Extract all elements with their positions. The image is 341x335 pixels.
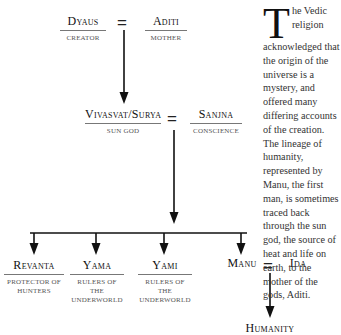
node-name: Yami: [138, 258, 192, 272]
node-yami: Yami Rulers of the underworld: [138, 258, 192, 305]
node-name: Yama: [70, 258, 124, 272]
node-name: Dyaus: [60, 14, 106, 28]
node-manu: Manu: [224, 256, 260, 270]
node-role-line2: hunters: [4, 287, 64, 296]
node-role-line1: Protector of: [4, 278, 64, 287]
node-humanity: Humanity: [238, 321, 302, 335]
node-name: Aditi: [145, 14, 187, 28]
divider: [145, 30, 187, 31]
union-symbol: =: [117, 14, 127, 31]
node-yama: Yama Rulers of the underworld: [70, 258, 124, 305]
node-role: Conscience: [190, 127, 242, 136]
node-vivasvat-surya: Vivasvat/Surya Sun god: [85, 107, 161, 136]
union-symbol: =: [167, 110, 177, 127]
divider: [70, 274, 124, 275]
node-revanta: Revanta Protector of hunters: [4, 258, 64, 296]
drop-cap: T: [263, 6, 290, 42]
node-name: Manu: [224, 256, 260, 270]
node-name: Vivasvat/Surya: [85, 107, 161, 121]
node-role-line2: underworld: [70, 296, 124, 305]
node-sanjna: Sanjna Conscience: [190, 107, 242, 136]
node-role: Sun god: [85, 127, 161, 136]
divider: [85, 123, 161, 124]
divider: [4, 274, 64, 275]
node-role-line2: underworld: [138, 296, 192, 305]
node-name: Revanta: [4, 258, 64, 272]
node-role: Mother: [145, 34, 187, 43]
node-role-line1: Rulers of the: [70, 278, 124, 296]
description-text: The Vedic religion acknowledged that the…: [263, 4, 341, 302]
node-role-line1: Rulers of the: [138, 278, 192, 296]
node-name: Sanjna: [190, 107, 242, 121]
node-name: Humanity: [238, 321, 302, 335]
divider: [190, 123, 242, 124]
node-dyaus: Dyaus Creator: [60, 14, 106, 43]
node-aditi: Aditi Mother: [145, 14, 187, 43]
description-body: he Vedic religion acknowledged that the …: [263, 5, 340, 300]
node-role: Creator: [60, 34, 106, 43]
divider: [60, 30, 106, 31]
divider: [138, 274, 192, 275]
